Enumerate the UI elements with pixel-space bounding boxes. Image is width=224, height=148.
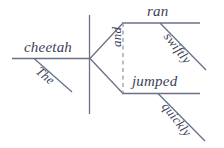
verb-two-label: jumped bbox=[132, 74, 177, 89]
lower-branch-riser bbox=[90, 59, 123, 94]
sentence-diagram: cheetah The and ran swiftly jumped quick… bbox=[0, 0, 224, 148]
subject-label: cheetah bbox=[24, 40, 72, 55]
verb-one-label: ran bbox=[147, 4, 168, 19]
conjunction-label: and bbox=[110, 27, 123, 47]
